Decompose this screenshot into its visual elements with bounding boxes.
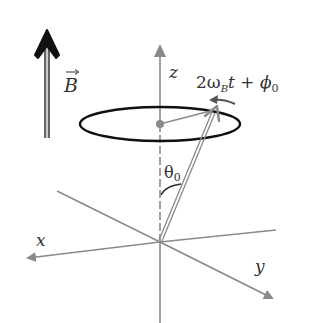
y-axis-label: y <box>254 256 265 276</box>
center-dot <box>156 120 164 128</box>
svg-text:B: B <box>63 74 78 96</box>
angle-label: θ0 <box>164 163 181 184</box>
phase-label: 2ωBt + ϕ0 <box>196 72 279 95</box>
z-axis <box>154 44 166 323</box>
x-axis <box>28 191 160 258</box>
x-axis-label: x <box>36 230 46 250</box>
svg-text:2ωBt + ϕ0: 2ωBt + ϕ0 <box>196 72 279 95</box>
radial-line <box>160 110 214 124</box>
rotation-direction-arrow <box>209 95 235 104</box>
field-label: B <box>63 70 79 97</box>
magnetic-field-arrow <box>35 30 59 138</box>
precession-diagram: B x y z 2ωBt + ϕ0 <box>0 0 314 323</box>
z-axis-label: z <box>168 62 179 82</box>
svg-text:θ0: θ0 <box>164 163 181 184</box>
